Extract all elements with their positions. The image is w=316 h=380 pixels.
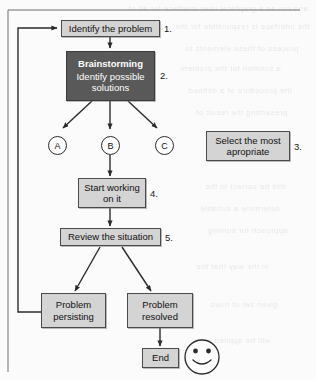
option-label: B [107, 141, 113, 151]
node-label: End [152, 352, 169, 364]
node-line-2: apropriate [227, 146, 270, 158]
node-problem-persisting[interactable]: Problem persisting [41, 293, 106, 328]
node-end[interactable]: End [142, 348, 179, 368]
node-line-2: persisting [53, 311, 94, 323]
node-label: Identify the problem [69, 23, 152, 35]
option-label: C [161, 141, 168, 151]
step-number-1: 1. [164, 23, 172, 34]
option-circle-a[interactable]: A [48, 136, 67, 155]
arrow-review-to-persisting [75, 247, 100, 291]
node-select-most-appropriate[interactable]: Select the most apropriate [206, 131, 290, 161]
step-number-3: 3. [294, 141, 302, 152]
node-header: Brainstorming [78, 58, 143, 70]
option-circle-b[interactable]: B [101, 136, 120, 155]
node-brainstorming[interactable]: Brainstorming Identify possible solution… [66, 51, 155, 101]
arrow-brainstorm-to-c [128, 101, 157, 128]
node-problem-resolved[interactable]: Problem resolved [127, 293, 193, 328]
node-line-1: Identify possible [76, 71, 144, 83]
option-label: A [54, 141, 60, 151]
node-line-1: Select the most [215, 135, 280, 147]
smiley-face-icon [185, 340, 219, 374]
node-line-2: on it [103, 193, 121, 205]
arrow-feedback-loop [18, 28, 57, 312]
step-number-5: 5. [165, 232, 173, 243]
option-circle-c[interactable]: C [155, 136, 174, 155]
node-line-1: Start working [84, 182, 139, 194]
node-line-1: Problem [56, 299, 91, 311]
node-line-2: resolved [142, 311, 178, 323]
step-number-4: 4. [150, 188, 158, 199]
node-start-working-on-it[interactable]: Start working on it [78, 178, 146, 208]
node-label: Review the situation [68, 231, 153, 243]
step-number-2: 2. [160, 70, 168, 81]
node-line-2: solutions [92, 82, 130, 94]
node-line-1: Problem [142, 299, 177, 311]
arrow-brainstorm-to-a [63, 101, 92, 128]
flowchart-figure: and run as a graphical user interface fo… [0, 0, 316, 380]
arrow-review-to-resolved [122, 247, 151, 291]
node-review-the-situation[interactable]: Review the situation [60, 228, 161, 246]
node-identify-the-problem[interactable]: Identify the problem [61, 20, 160, 37]
